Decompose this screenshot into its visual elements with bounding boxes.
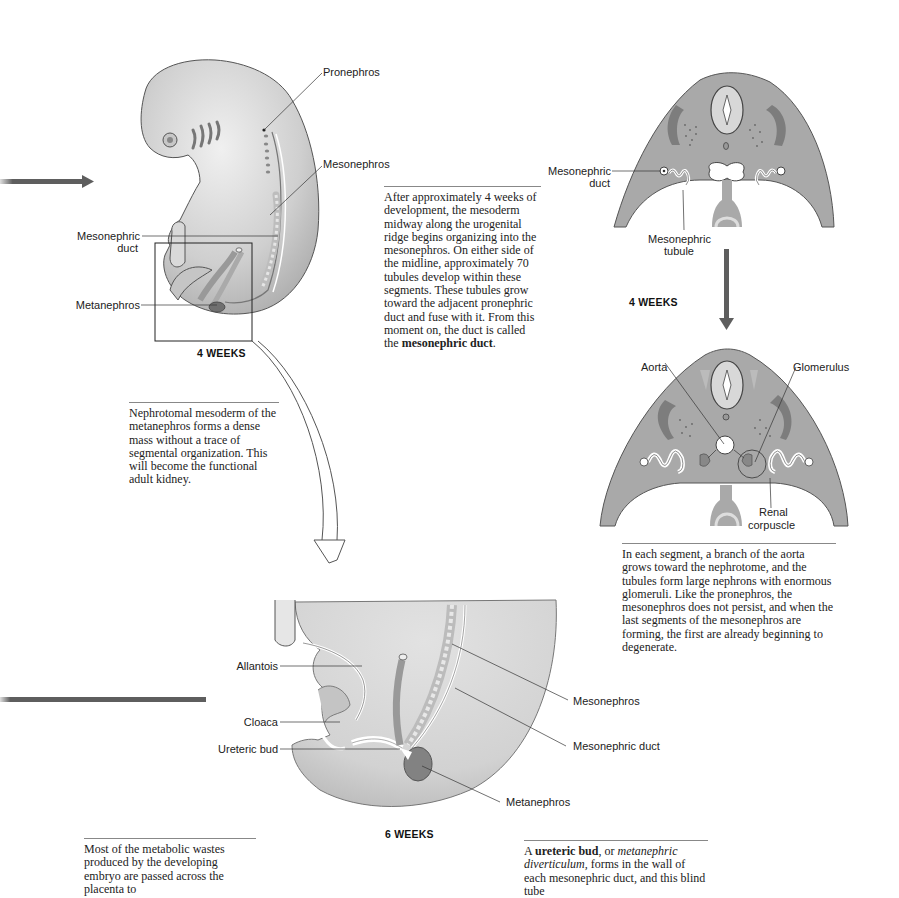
- caption-metabolic-wastes-text: Most of the metabolic wastes produced by…: [84, 842, 225, 896]
- label-mesonephros-6wk: Mesonephros: [573, 695, 640, 707]
- caption-mesonephros-4wk-text: After approximately 4 weeks of developme…: [384, 190, 537, 350]
- caption-ureteric-bud: A ureteric bud, or metanephric diverticu…: [524, 840, 708, 898]
- label-ureteric-bud: Ureteric bud: [190, 743, 278, 755]
- caption-ureteric-bud-pre: A: [524, 844, 535, 858]
- caption-mesonephros-4wk-bold: mesonephric duct: [402, 336, 493, 350]
- caption-ureteric-bud-mid: , or: [598, 844, 617, 858]
- label-cloaca: Cloaca: [200, 716, 278, 728]
- caption-metanephros-text: Nephrotomal mesoderm of the metanephros …: [129, 406, 276, 486]
- caption-mesonephros-4wk: After approximately 4 weeks of developme…: [384, 186, 541, 351]
- label-allantois: Allantois: [200, 660, 278, 672]
- label-metanephros-6wk: Metanephros: [506, 796, 570, 808]
- caption-ureteric-bud-bold: ureteric bud: [535, 844, 598, 858]
- label-mesonephric-duct-6wk: Mesonephric duct: [573, 740, 660, 752]
- caption-metanephros: Nephrotomal mesoderm of the metanephros …: [129, 402, 279, 487]
- caption-metabolic-wastes: Most of the metabolic wastes produced by…: [84, 838, 256, 896]
- caption-mesonephros-4wk-tail: .: [493, 336, 496, 350]
- caption-aorta-branch-text: In each segment, a branch of the aorta g…: [622, 547, 833, 654]
- caption-aorta-branch: In each segment, a branch of the aorta g…: [622, 543, 836, 654]
- stage-label-6wk: 6 WEEKS: [385, 828, 434, 840]
